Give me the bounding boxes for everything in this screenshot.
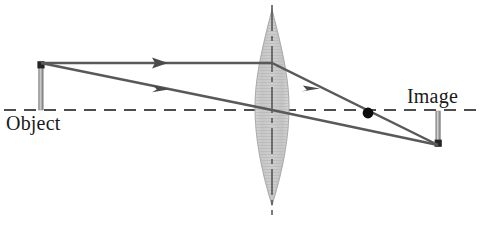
- image-label: Image: [407, 86, 458, 106]
- focal-point-dot: [363, 108, 374, 119]
- chief-ray: [41, 63, 438, 145]
- object-label: Object: [6, 113, 61, 133]
- ray-diagram-figure: Object Image: [0, 0, 481, 226]
- ray-diagram-canvas: [0, 0, 481, 226]
- image-arrow: [435, 111, 442, 147]
- object-arrow: [37, 61, 44, 110]
